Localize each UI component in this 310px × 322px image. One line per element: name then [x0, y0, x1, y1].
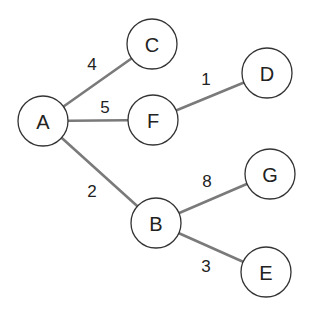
edge-weight-a-b: 2	[87, 182, 96, 201]
node-b: B	[131, 198, 181, 248]
graph-diagram: 451283 ACFDBGE	[0, 0, 310, 322]
edge-weight-b-g: 8	[202, 172, 211, 191]
edge-weight-a-f: 5	[100, 98, 109, 117]
edge-weight-b-e: 3	[201, 257, 210, 276]
node-label: E	[259, 262, 272, 284]
nodes-layer: ACFDBGE	[18, 19, 295, 297]
node-e: E	[241, 247, 291, 297]
node-f: F	[128, 95, 178, 145]
node-label: B	[149, 213, 162, 235]
node-g: G	[245, 149, 295, 199]
edge-weight-a-c: 4	[87, 55, 96, 74]
edge-weight-f-d: 1	[201, 70, 210, 89]
node-label: G	[262, 164, 278, 186]
graph-canvas: 451283 ACFDBGE	[0, 0, 310, 322]
node-label: D	[260, 63, 274, 85]
node-label: F	[147, 110, 159, 132]
node-a: A	[18, 96, 68, 146]
node-label: A	[36, 111, 50, 133]
node-label: C	[145, 34, 159, 56]
node-d: D	[242, 48, 292, 98]
node-c: C	[127, 19, 177, 69]
